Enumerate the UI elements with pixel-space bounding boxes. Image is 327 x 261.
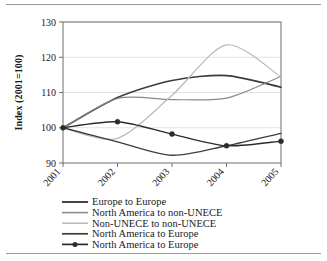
legend-marker-4 bbox=[73, 242, 78, 247]
legend-label-1: North America to non-UNECE bbox=[92, 207, 222, 218]
y-tick-label: 130 bbox=[41, 17, 56, 28]
series-layer bbox=[61, 45, 284, 156]
x-tick-label: 2005 bbox=[259, 166, 281, 188]
series-line-1 bbox=[63, 76, 281, 127]
x-tick-labels: 20012002200320042005 bbox=[41, 166, 281, 188]
x-tick-label: 2002 bbox=[95, 166, 117, 188]
chart-legend: Europe to EuropeNorth America to non-UNE… bbox=[62, 196, 222, 249]
y-tick-label: 120 bbox=[41, 52, 56, 63]
series-marker-4-0 bbox=[61, 125, 66, 130]
x-tick-label: 2001 bbox=[41, 166, 63, 188]
legend-label-4: North America to Europe bbox=[92, 239, 199, 250]
x-tick-label: 2003 bbox=[150, 166, 172, 188]
legend-label-2: Non-UNECE to non-UNECE bbox=[92, 218, 216, 229]
line-chart: 90100110120130 20012002200320042005 Inde… bbox=[0, 0, 327, 261]
y-tick-label: 110 bbox=[41, 87, 56, 98]
y-tick-label: 100 bbox=[41, 122, 56, 133]
series-marker-4-3 bbox=[224, 143, 229, 148]
x-tick-label: 2004 bbox=[204, 166, 226, 188]
legend-label-3: North America to Europe bbox=[92, 228, 199, 239]
y-axis-title: Index (2001=100) bbox=[13, 55, 25, 131]
y-axis-ticks bbox=[59, 22, 63, 163]
y-tick-labels: 90100110120130 bbox=[41, 17, 56, 169]
y-axis-title-text: Index (2001=100) bbox=[13, 55, 25, 131]
series-marker-4-2 bbox=[170, 132, 175, 137]
series-line-0 bbox=[63, 75, 281, 127]
chart-figure: 90100110120130 20012002200320042005 Inde… bbox=[0, 0, 327, 261]
series-marker-4-4 bbox=[279, 139, 284, 144]
series-marker-4-1 bbox=[115, 119, 120, 124]
x-axis-ticks bbox=[63, 163, 281, 167]
series-line-2 bbox=[63, 45, 281, 139]
legend-label-0: Europe to Europe bbox=[92, 196, 166, 207]
gridlines bbox=[63, 22, 281, 128]
